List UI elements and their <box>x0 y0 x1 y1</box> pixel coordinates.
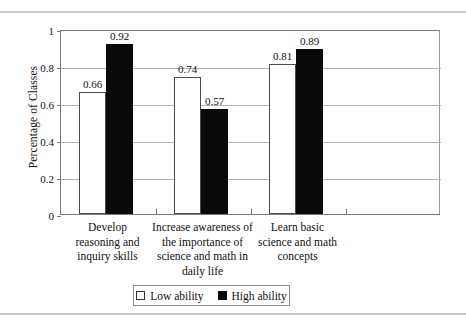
y-tick-mark <box>57 105 61 106</box>
y-tick-mark <box>57 31 61 32</box>
chart-legend: Low abilityHigh ability <box>133 285 290 306</box>
y-tick-label: 0.4 <box>40 136 54 148</box>
x-axis-group-tick <box>156 209 157 214</box>
category-label-line: concepts <box>242 249 353 264</box>
category-label-line: daily life <box>147 264 258 279</box>
bar-low-ability <box>174 77 201 214</box>
legend-item-low-ability[interactable]: Low ability <box>136 290 203 302</box>
y-tick-mark <box>57 216 61 217</box>
y-tick-mark <box>57 142 61 143</box>
legend-item-high-ability[interactable]: High ability <box>218 290 287 302</box>
x-axis-category-label: Learn basicscience and mathconcepts <box>242 220 353 264</box>
bar-value-label: 0.89 <box>300 35 319 47</box>
y-tick-mark <box>57 179 61 180</box>
bar-high-ability <box>106 44 133 214</box>
bar-high-ability <box>201 109 228 214</box>
top-divider-rule <box>0 11 466 13</box>
black-square-icon <box>218 291 227 300</box>
bar-value-label: 0.57 <box>205 95 224 107</box>
bar-value-label: 0.66 <box>83 78 102 90</box>
bar-low-ability <box>79 92 106 214</box>
x-axis-group-tick <box>251 209 252 214</box>
bar-low-ability <box>269 64 296 214</box>
bar-value-label: 0.81 <box>273 50 292 62</box>
category-label-line: science and math <box>242 235 353 250</box>
y-tick-mark <box>57 68 61 69</box>
x-axis-group-tick <box>346 209 347 214</box>
bar-value-label: 0.74 <box>178 63 197 75</box>
y-tick-label: 0.2 <box>40 173 54 185</box>
legend-label: Low ability <box>150 290 203 302</box>
bar-high-ability <box>296 49 323 214</box>
y-tick-label: 0.6 <box>40 99 54 111</box>
bar-chart-figure: Percentage of Classes 00.20.40.60.81 0.6… <box>0 16 466 312</box>
plot-area: 00.20.40.60.81 0.660.920.740.570.810.89 <box>60 30 440 215</box>
category-label-line: Learn basic <box>242 220 353 235</box>
bar-value-label: 0.92 <box>110 30 129 42</box>
legend-label: High ability <box>232 290 287 302</box>
white-square-icon <box>136 291 145 300</box>
y-tick-label: 0.8 <box>40 62 54 74</box>
bottom-divider-rule <box>0 313 466 315</box>
y-tick-label: 1 <box>49 25 55 37</box>
